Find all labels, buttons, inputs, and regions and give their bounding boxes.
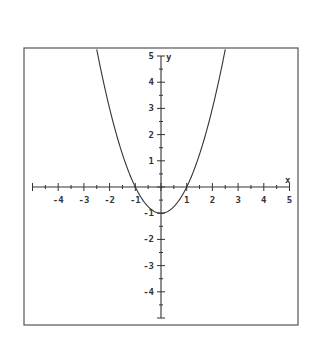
x-tick-label: 1 [184, 195, 189, 205]
x-tick-label: -3 [78, 195, 89, 205]
x-tick-label: 4 [261, 195, 267, 205]
y-axis-label: y [166, 52, 172, 62]
x-tick-label: 5 [287, 195, 292, 205]
y-tick-label: 2 [149, 130, 154, 140]
y-tick-label: 3 [149, 103, 154, 113]
ticks [33, 56, 290, 318]
y-tick-label: 1 [149, 156, 154, 166]
x-tick-label: -1 [130, 195, 141, 205]
tick-labels: -4-3-2-11234554321-1-2-3-4 [53, 51, 292, 297]
x-tick-label: -4 [53, 195, 64, 205]
x-tick-label: -2 [104, 195, 115, 205]
function-graph: -4-3-2-11234554321-1-2-3-4 x y [0, 0, 321, 343]
y-tick-label: 5 [149, 51, 154, 61]
x-tick-label: 3 [235, 195, 240, 205]
y-tick-label: -2 [143, 234, 154, 244]
y-tick-label: 4 [149, 77, 155, 87]
x-tick-label: 2 [210, 195, 215, 205]
y-tick-label: -4 [143, 287, 154, 297]
y-tick-label: -3 [143, 261, 154, 271]
x-axis-label: x [285, 175, 291, 185]
